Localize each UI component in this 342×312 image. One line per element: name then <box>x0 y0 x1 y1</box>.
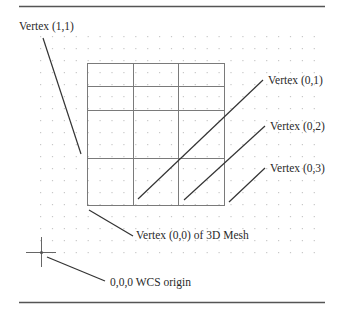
leader-vertex-1-1 <box>43 38 81 154</box>
label-wcs-origin: 0,0,0 WCS origin <box>110 277 191 289</box>
dot-grid <box>40 36 315 253</box>
leader-vertex-0-0 <box>89 210 133 236</box>
leader-vertex-0-3 <box>229 168 265 202</box>
label-vertex-0-1: Vertex (0,1) <box>268 75 323 87</box>
leader-lines <box>43 38 265 281</box>
3d-mesh-grid <box>87 63 225 206</box>
label-vertex-0-0: Vertex (0,0) of 3D Mesh <box>136 230 249 242</box>
wcs-origin-crosshair-icon <box>26 237 56 267</box>
label-vertex-1-1: Vertex (1,1) <box>19 21 74 33</box>
mesh-diagram <box>0 0 342 312</box>
label-vertex-0-2: Vertex (0,2) <box>270 121 325 133</box>
leader-wcs-origin <box>47 257 105 281</box>
label-vertex-0-3: Vertex (0,3) <box>270 163 325 175</box>
leader-vertex-0-1 <box>138 80 263 199</box>
